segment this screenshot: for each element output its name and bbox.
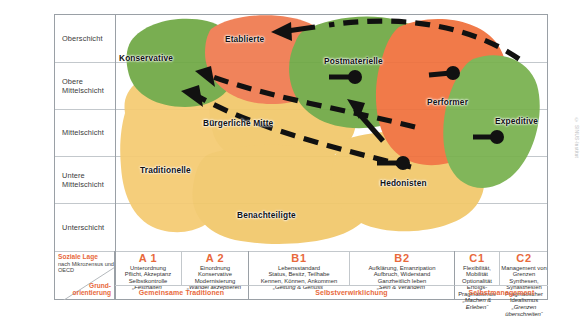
dot-performer (446, 66, 460, 80)
legend-line: Konservative (182, 271, 248, 278)
legend-line: Ganzheitlich leben (350, 278, 454, 285)
legend-line: Kennen, Können, Ankommen (249, 278, 349, 285)
legend-line: Einordnung (182, 265, 248, 272)
axis-row-oberschicht: Oberschicht (56, 15, 112, 62)
axis-row-label: Mittelschicht (62, 128, 104, 137)
axis-row-unterschicht: Unterschicht (56, 203, 112, 251)
credit-text: © SINUS-Institut (574, 118, 579, 158)
milieu-label-buergerliche-mitte: Bürgerliche Mitte (203, 118, 273, 128)
legend-code: A 1 (115, 252, 181, 264)
legend-col-a2: A 2 Einordnung Konservative Modernisieru… (182, 251, 249, 285)
legend-code: B1 (249, 252, 349, 264)
legend-code: C2 (500, 252, 548, 264)
legend-line: Optionalität (455, 278, 499, 285)
legend-line: Modernisierung (182, 278, 248, 285)
milieu-label-etablierte: Etablierte (225, 34, 264, 44)
legend-line: Flexibilität, Mobilität (455, 265, 499, 278)
legend-line: Unterordnung (115, 265, 181, 272)
milieu-shapes (115, 15, 547, 248)
axis-row-label: Oberschicht (62, 34, 103, 43)
milieu-label-konservative: Konservative (119, 53, 173, 63)
legend-line: Lebensstandard (249, 265, 349, 272)
axis-row-mittelschicht: Mittelschicht (56, 109, 112, 156)
legend-line: Aufbruch, Widerstand (350, 271, 454, 278)
legend-line: Management von Grenzen (500, 265, 548, 278)
legend-line: Pflicht, Akzeptanz (115, 271, 181, 278)
milieu-label-traditionelle: Traditionelle (140, 165, 191, 175)
axis-row-label: Unterschicht (62, 223, 104, 232)
milieu-label-hedonisten: Hedonisten (380, 178, 427, 188)
dot-expeditive (490, 130, 504, 144)
legend-motto: „Grenzen überschreiten“ (505, 304, 543, 317)
legend-motto: „Machen & Erleben“ (463, 297, 491, 310)
legend-group-selbstverwirklichung: Selbstverwirklichung (249, 285, 455, 299)
milieu-label-postmaterielle: Postmaterielle (324, 56, 383, 66)
legend-col-c1: C1 Flexibilität, Mobilität Optionalität … (455, 251, 500, 285)
legend-col-c2: C2 Management von Grenzen Synthesen, Syn… (500, 251, 548, 285)
axis-row-label: UntereMittelschicht (62, 171, 104, 189)
legend-group-selbstmanagement: Selbstmanagement (455, 285, 548, 299)
legend-line: Selbstkontrolle (115, 278, 181, 285)
legend-line: Status, Besitz, Teilhabe (249, 271, 349, 278)
legend-col-a1: A 1 Unterordnung Pflicht, Akzeptanz Selb… (115, 251, 182, 285)
dot-postmaterielle (348, 70, 362, 84)
axis-row-label: ObereMittelschicht (62, 77, 104, 95)
milieu-label-benachteiligte: Benachteiligte (237, 210, 296, 220)
axis-row-untere-mittelschicht: UntereMittelschicht (56, 156, 112, 203)
legend-line: Aufklärung, Emanzipation (350, 265, 454, 272)
legend-col-b1: B1 Lebensstandard Status, Besitz, Teilha… (249, 251, 350, 285)
milieu-label-expeditive: Expeditive (495, 116, 538, 126)
orientation-legend: A 1 Unterordnung Pflicht, Akzeptanz Selb… (54, 251, 548, 300)
sinus-milieus-diagram: Oberschicht ObereMittelschicht Mittelsch… (0, 0, 580, 327)
legend-code: A 2 (182, 252, 248, 264)
legend-col-b2: B2 Aufklärung, Emanzipation Aufbruch, Wi… (350, 251, 455, 285)
legend-code: B2 (350, 252, 454, 264)
legend-group-traditionen: Gemeinsame Traditionen (115, 285, 249, 299)
legend-code: C1 (455, 252, 499, 264)
milieu-label-performer: Performer (427, 97, 468, 107)
dot-mitte (396, 156, 410, 170)
axis-row-obere-mittelschicht: ObereMittelschicht (56, 62, 112, 109)
milieu-plot: Konservative Etablierte Postmaterielle P… (115, 15, 547, 248)
